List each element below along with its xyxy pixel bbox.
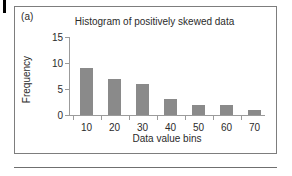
y-axis-tick: [65, 89, 69, 90]
x-axis-tick-label: 60: [221, 122, 232, 133]
x-axis-tick: [185, 116, 186, 120]
y-axis-tick-label: 0: [57, 110, 63, 121]
histogram-bar: [220, 105, 233, 115]
footer-rule: [14, 167, 277, 168]
histogram-bar: [248, 110, 261, 115]
histogram-bar: [164, 99, 177, 115]
histogram-bar: [192, 105, 205, 115]
plot-area: 051015 10203040506070: [69, 37, 265, 115]
x-axis-title: Data value bins: [69, 133, 265, 144]
y-axis-title-label: Frequency: [22, 55, 33, 102]
x-axis-tick: [73, 116, 74, 120]
x-axis-tick-label: 40: [165, 122, 176, 133]
y-axis-tick-label: 10: [52, 58, 63, 69]
x-axis-line: [69, 115, 265, 116]
histogram-bar: [136, 84, 149, 115]
x-axis-tick: [129, 116, 130, 120]
x-axis-tick: [213, 116, 214, 120]
y-axis-tick: [65, 63, 69, 64]
histogram-bar: [80, 68, 93, 115]
x-axis-tick-label: 30: [137, 122, 148, 133]
corner-rule-mark: [3, 0, 6, 13]
x-axis-tick-label: 10: [81, 122, 92, 133]
y-axis-title: Frequency: [20, 43, 34, 115]
x-axis-tick: [157, 116, 158, 120]
histogram-chart: Frequency 051015 10203040506070 Data val…: [15, 7, 276, 153]
y-axis-tick-label: 5: [57, 84, 63, 95]
x-axis-tick-label: 70: [249, 122, 260, 133]
y-axis-tick: [65, 37, 69, 38]
x-axis-tick: [101, 116, 102, 120]
figure-panel: (a) Histogram of positively skewed data …: [14, 6, 277, 154]
y-axis-tick: [65, 115, 69, 116]
histogram-bar: [108, 79, 121, 115]
x-axis-tick: [241, 116, 242, 120]
x-axis-tick-label: 20: [109, 122, 120, 133]
y-axis-line: [69, 37, 70, 115]
x-axis-tick-label: 50: [193, 122, 204, 133]
y-axis-tick-label: 15: [52, 32, 63, 43]
